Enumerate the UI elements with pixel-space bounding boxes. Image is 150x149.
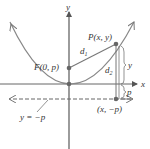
vertex-point	[67, 82, 72, 87]
focus-point	[67, 66, 72, 71]
y-axis-label: y	[65, 2, 70, 12]
x-axis-label: x	[140, 79, 145, 89]
parabola-curve	[10, 22, 134, 84]
directrix-label-pointer	[37, 100, 48, 112]
y-brace	[121, 46, 126, 84]
parabola-diagram: y x F(0, p) P(x, y) d1 d2 y p (x, −p) y …	[0, 0, 150, 149]
foot-point	[114, 97, 119, 102]
point-p-label: P(x, y)	[87, 32, 112, 42]
point-p	[114, 42, 119, 47]
d1-label: d1	[80, 46, 88, 57]
p-brace	[121, 85, 126, 98]
focus-label: F(0, p)	[33, 62, 59, 72]
y-segment-label: y	[127, 60, 132, 70]
d2-label: d2	[105, 65, 113, 76]
foot-point-label: (x, −p)	[97, 104, 122, 114]
directrix-label: y = −p	[19, 112, 46, 122]
p-segment-label: p	[126, 87, 132, 97]
